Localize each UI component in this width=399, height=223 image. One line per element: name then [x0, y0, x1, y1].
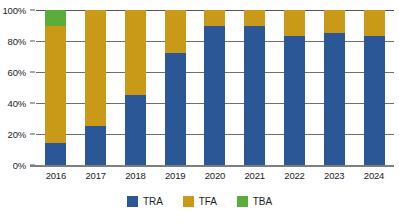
bar-column: [125, 10, 146, 165]
y-axis-tick: [30, 72, 35, 73]
bar-segment-tfa: [284, 10, 305, 36]
x-axis-tick-label: 2018: [125, 170, 146, 181]
x-axis-line: [30, 165, 394, 167]
bar-column: [244, 10, 265, 165]
bar-segment-tra: [244, 26, 265, 166]
bar-column: [45, 10, 66, 165]
y-axis-tick-label: 100%: [3, 5, 27, 16]
bar-segment-tba: [45, 10, 66, 26]
y-axis-tick-label: 0%: [13, 160, 26, 171]
x-axis-tick-label: 2017: [85, 170, 106, 181]
legend-item-tfa[interactable]: TFA: [183, 196, 217, 207]
x-axis-tick-label: 2020: [204, 170, 225, 181]
bar-segment-tfa: [125, 10, 146, 95]
plot-wrapper: 0%20%40%60%80%100% 201620172018201920202…: [0, 0, 399, 190]
y-axis-tick: [30, 134, 35, 135]
legend-label: TBA: [253, 196, 272, 207]
bar-segment-tfa: [204, 10, 225, 26]
x-axis-tick-label: 2021: [244, 170, 265, 181]
x-axis-tick-label: 2023: [324, 170, 345, 181]
x-axis-tick-label: 2019: [165, 170, 186, 181]
bar-column: [165, 10, 186, 165]
bar-segment-tra: [45, 143, 66, 165]
chart-legend: TRATFATBA: [0, 196, 399, 207]
y-axis-tick-label: 80%: [8, 36, 26, 47]
bar-segment-tra: [284, 36, 305, 165]
bar-group: [36, 10, 394, 165]
bar-segment-tra: [204, 26, 225, 166]
legend-item-tba[interactable]: TBA: [237, 196, 272, 207]
y-axis-tick-label: 60%: [8, 67, 26, 78]
plot-area: [36, 10, 394, 165]
bar-segment-tfa: [85, 10, 106, 126]
y-axis-tick: [30, 41, 35, 42]
y-axis-tick-label: 40%: [8, 98, 26, 109]
bar-segment-tra: [364, 36, 385, 165]
bar-column: [85, 10, 106, 165]
y-axis-tick: [30, 10, 35, 11]
bar-column: [324, 10, 345, 165]
bar-segment-tfa: [324, 10, 345, 33]
y-axis-tick: [30, 103, 35, 104]
bar-column: [284, 10, 305, 165]
legend-label: TFA: [199, 196, 217, 207]
bar-segment-tra: [165, 53, 186, 165]
bar-column: [204, 10, 225, 165]
legend-swatch-icon: [127, 196, 138, 207]
bar-column: [364, 10, 385, 165]
bar-segment-tra: [324, 33, 345, 165]
stacked-bar-chart: 0%20%40%60%80%100% 201620172018201920202…: [0, 0, 399, 223]
bar-segment-tfa: [244, 10, 265, 26]
legend-swatch-icon: [183, 196, 194, 207]
legend-label: TRA: [143, 196, 163, 207]
y-axis: 0%20%40%60%80%100%: [0, 0, 30, 190]
x-axis-labels: 201620172018201920202021202220232024: [36, 170, 394, 188]
y-axis-tick-label: 20%: [8, 129, 26, 140]
x-axis-tick-label: 2016: [45, 170, 66, 181]
x-axis-tick-label: 2022: [284, 170, 305, 181]
bar-segment-tra: [85, 126, 106, 165]
bar-segment-tra: [125, 95, 146, 165]
legend-item-tra[interactable]: TRA: [127, 196, 163, 207]
legend-swatch-icon: [237, 196, 248, 207]
bar-segment-tfa: [165, 10, 186, 53]
x-axis-tick-label: 2024: [364, 170, 385, 181]
bar-segment-tfa: [364, 10, 385, 36]
bar-segment-tfa: [45, 26, 66, 144]
